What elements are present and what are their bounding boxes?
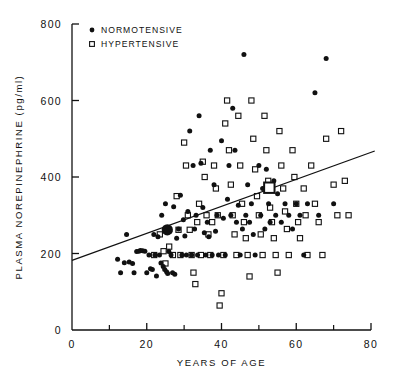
scatter-plot: 0200400600800020406080YEARS OF AGEPLASMA… <box>0 0 395 373</box>
data-point-hypertensive <box>253 167 258 172</box>
regression-line <box>72 151 375 260</box>
data-point-hypertensive <box>251 136 256 141</box>
data-point-normotensive <box>234 220 239 225</box>
data-point-normotensive <box>122 260 127 265</box>
data-point-hypertensive <box>331 182 336 187</box>
data-point-hypertensive <box>236 113 241 118</box>
legend-marker-hypertensive <box>90 42 95 47</box>
data-point-normotensive <box>130 261 135 266</box>
data-point-hypertensive <box>309 163 314 168</box>
data-point-normotensive <box>316 213 321 218</box>
data-point-normotensive <box>142 249 147 254</box>
data-point-hypertensive <box>258 232 263 237</box>
data-point-normotensive <box>247 220 252 225</box>
x-axis-title: YEARS OF AGE <box>177 357 266 368</box>
data-point-normotensive <box>268 220 273 225</box>
data-point-normotensive <box>301 253 306 258</box>
data-point-hypertensive <box>284 226 289 231</box>
data-point-hypertensive <box>211 163 216 168</box>
x-tick-label-80: 80 <box>364 338 378 350</box>
data-point-normotensive <box>331 201 336 206</box>
data-point-normotensive <box>195 253 200 258</box>
data-point-hypertensive <box>346 213 351 218</box>
legend-label-0: NORMOTENSIVE <box>101 25 183 35</box>
data-point-normotensive <box>124 232 129 237</box>
data-point-hypertensive <box>297 236 302 241</box>
data-point-hypertensive <box>290 148 295 153</box>
data-point-normotensive <box>275 191 280 196</box>
data-point-normotensive <box>251 232 256 237</box>
data-point-hypertensive <box>271 236 276 241</box>
data-point-normotensive <box>232 148 237 153</box>
data-point-normotensive <box>169 253 174 258</box>
data-point-normotensive <box>264 167 269 172</box>
data-point-hypertensive <box>301 186 306 191</box>
data-point-hypertensive <box>167 244 172 249</box>
data-point-hypertensive <box>228 182 233 187</box>
data-point-normotensive <box>198 161 203 166</box>
data-point-normotensive <box>312 90 317 95</box>
data-point-normotensive <box>191 163 196 168</box>
data-point-normotensive <box>258 213 263 218</box>
data-point-normotensive <box>240 227 245 232</box>
data-point-hypertensive <box>282 209 287 214</box>
x-tick-label-40: 40 <box>214 338 228 350</box>
data-point-normotensive <box>297 213 302 218</box>
data-point-hypertensive <box>225 98 230 103</box>
data-point-hypertensive <box>260 252 265 257</box>
data-point-normotensive <box>115 257 120 262</box>
y-tick-label-400: 400 <box>41 171 62 183</box>
data-point-hypertensive <box>238 163 243 168</box>
x-tick-label-60: 60 <box>289 338 303 350</box>
data-point-hypertensive <box>262 113 267 118</box>
data-point-normotensive <box>290 227 295 232</box>
data-point-normotensive <box>194 213 199 218</box>
data-point-normotensive <box>279 220 284 225</box>
data-point-normotensive <box>159 213 164 218</box>
legend-label-1: HYPERTENSIVE <box>101 39 179 49</box>
data-point-normotensive <box>219 138 224 143</box>
data-point-normotensive <box>174 236 179 241</box>
data-point-normotensive <box>245 182 250 187</box>
data-point-normotensive <box>221 216 226 221</box>
data-point-normotensive <box>172 272 177 277</box>
data-point-hypertensive <box>187 227 192 232</box>
y-tick-label-200: 200 <box>41 248 62 260</box>
data-point-normotensive <box>225 197 230 202</box>
data-point-hypertensive <box>273 252 278 257</box>
data-point-normotensive <box>213 229 218 234</box>
data-point-hypertensive <box>324 136 329 141</box>
data-point-hypertensive <box>296 220 301 225</box>
data-point-normotensive <box>184 253 189 258</box>
data-point-normotensive <box>262 227 267 232</box>
x-tick-label-0: 0 <box>68 338 75 350</box>
data-point-normotensive <box>273 213 278 218</box>
data-point-hypertensive <box>202 174 207 179</box>
data-point-normotensive <box>283 201 288 206</box>
figure-container: 0200400600800020406080YEARS OF AGEPLASMA… <box>0 0 395 373</box>
data-point-normotensive <box>253 253 258 258</box>
data-point-hypertensive <box>335 213 340 218</box>
data-point-hypertensive <box>241 220 246 225</box>
data-point-hypertensive <box>279 163 284 168</box>
data-point-normotensive <box>238 253 243 258</box>
data-point-normotensive <box>118 270 123 275</box>
data-point-hypertensive <box>320 252 325 257</box>
data-point-hypertensive <box>195 220 200 225</box>
data-point-hypertensive <box>277 129 282 134</box>
data-point-hypertensive <box>232 232 237 237</box>
normotensive-mean <box>162 224 173 235</box>
data-point-hypertensive <box>286 252 291 257</box>
data-point-normotensive <box>228 213 233 218</box>
data-point-normotensive <box>241 52 246 57</box>
data-point-hypertensive <box>312 201 317 206</box>
data-point-hypertensive <box>204 213 209 218</box>
data-point-hypertensive <box>249 98 254 103</box>
data-point-normotensive <box>144 270 149 275</box>
data-point-normotensive <box>171 204 176 209</box>
data-point-normotensive <box>182 233 187 238</box>
data-point-hypertensive <box>264 148 269 153</box>
data-point-hypertensive <box>226 148 231 153</box>
data-point-hypertensive <box>247 274 252 279</box>
x-tick-label-20: 20 <box>140 338 154 350</box>
